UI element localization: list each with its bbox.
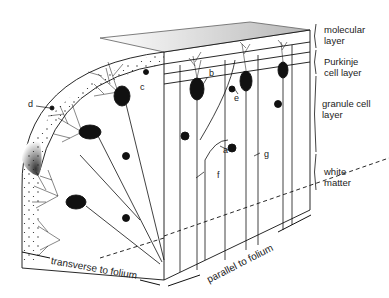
label-d: d [28, 99, 33, 110]
label-purkinje-line2: cell layer [324, 67, 362, 78]
label-purkinje-line1: Purkinje [324, 56, 362, 67]
label-c: c [140, 82, 145, 93]
label-f: f [217, 170, 220, 181]
label-granule-layer: granule cell layer [322, 98, 371, 120]
label-white-line2: matter [324, 177, 351, 188]
label-granule-line2: layer [322, 109, 371, 120]
label-white-line1: white [324, 166, 351, 177]
label-molecular-line1: molecular [324, 24, 365, 35]
label-white-matter: white matter [324, 166, 351, 188]
label-a: a [223, 145, 228, 156]
label-g: g [264, 149, 269, 160]
label-purkinje-layer: Purkinje cell layer [324, 56, 362, 78]
layer-braces [315, 24, 317, 190]
label-molecular-line2: layer [324, 35, 365, 46]
label-molecular-layer: molecular layer [324, 24, 365, 46]
purkinje-cells-transverse [66, 86, 130, 209]
label-e: e [234, 93, 239, 104]
label-b: b [209, 68, 214, 79]
label-granule-line1: granule cell [322, 98, 371, 109]
